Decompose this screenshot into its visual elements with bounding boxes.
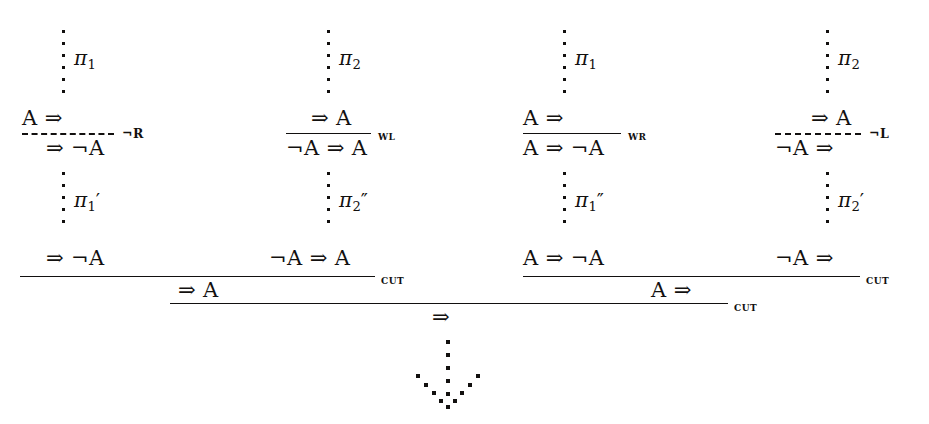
dotted-down-arrow-icon [410, 336, 490, 418]
inference-line-negL [775, 133, 861, 135]
rule-label-WL: WL [378, 130, 395, 143]
proof-dots-branch-1-lower [62, 172, 65, 232]
proof-label-branch-4-lower: π2′ [838, 190, 864, 213]
proof-label-branch-4-upper: π2 [838, 48, 860, 71]
proof-dots-branch-2-upper [327, 30, 330, 102]
sequent-cut-left-conclusion: ⇒ A [178, 280, 219, 301]
rule-label-WR: WR [628, 130, 647, 143]
proof-dots-branch-3-lower [563, 172, 566, 232]
proof-dots-branch-3-upper [563, 30, 566, 102]
rule-label-cut-right: CUT [866, 274, 889, 287]
proof-label-branch-1-upper: π1 [74, 48, 96, 71]
inference-line-negR [22, 133, 114, 135]
proof-label-branch-2-upper: π2 [339, 48, 361, 71]
sequent-branch-3-endsequent: A ⇒ ¬A [523, 248, 604, 269]
sequent-branch-2-premise: ⇒ A [311, 108, 352, 129]
sequent-branch-2-conclusion: ¬A ⇒ A [286, 138, 367, 159]
proof-dots-branch-2-lower [327, 172, 330, 232]
sequent-branch-4-endsequent: ¬A ⇒ [775, 248, 834, 269]
proof-label-branch-3-upper: π1 [575, 48, 597, 71]
sequent-branch-4-premise: ⇒ A [811, 108, 852, 129]
sequent-branch-1-endsequent: ⇒ ¬A [46, 248, 105, 269]
sequent-branch-1-premise: A ⇒ [22, 108, 63, 129]
sequent-empty-conclusion: ⇒ [432, 307, 450, 328]
sequent-branch-2-endsequent: ¬A ⇒ A [269, 248, 350, 269]
proof-label-branch-2-lower: π2″ [339, 190, 367, 213]
inference-line-cut-right [523, 276, 860, 277]
inference-line-WL [286, 133, 371, 134]
proof-dots-branch-4-lower [826, 172, 829, 232]
sequent-branch-1-conclusion: ⇒ ¬A [46, 138, 105, 159]
rule-label-negR: ¬R [122, 128, 144, 141]
inference-line-cut-left [20, 276, 375, 277]
proof-label-branch-3-lower: π1″ [575, 190, 603, 213]
proof-tree-figure: π1 A ⇒ ¬R ⇒ ¬A π1′ ⇒ ¬A π2 ⇒ A WL ¬A ⇒ A… [0, 0, 929, 424]
sequent-branch-3-conclusion: A ⇒ ¬A [523, 138, 604, 159]
sequent-branch-3-premise: A ⇒ [523, 108, 564, 129]
rule-label-negL: ¬L [869, 128, 889, 141]
inference-line-cut-final [170, 303, 728, 304]
rule-label-cut-left: CUT [381, 274, 404, 287]
sequent-branch-4-conclusion: ¬A ⇒ [775, 138, 834, 159]
inference-line-WR [523, 133, 621, 134]
proof-dots-branch-4-upper [826, 30, 829, 102]
proof-dots-branch-1-upper [62, 30, 65, 102]
proof-label-branch-1-lower: π1′ [74, 190, 100, 213]
rule-label-cut-final: CUT [734, 301, 757, 314]
sequent-cut-right-conclusion: A ⇒ [651, 280, 692, 301]
